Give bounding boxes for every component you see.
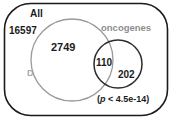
- intersection-count: 110: [96, 58, 112, 68]
- universe-count: 16597: [9, 26, 37, 36]
- set-d-count: 2749: [51, 42, 75, 53]
- set-oncogenes-label: oncogenes: [101, 23, 151, 33]
- set-d-label: D: [27, 69, 34, 78]
- set-oncogenes-count: 202: [118, 70, 135, 80]
- venn-diagram-figure: All 16597 D 2749 oncogenes 202 110 (p < …: [0, 0, 172, 119]
- universe-label: All: [30, 9, 43, 19]
- p-value-annotation: (p < 4.5e-14): [97, 95, 149, 104]
- p-value-text: < 4.5e-14): [106, 94, 150, 104]
